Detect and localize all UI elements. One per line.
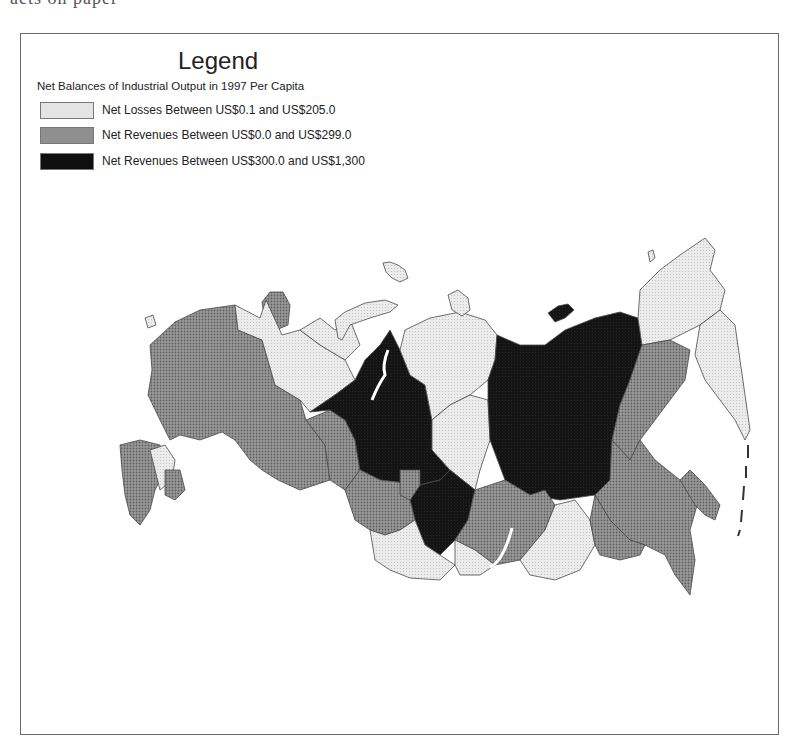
region-dagestan — [165, 470, 185, 500]
kurile-islands — [738, 445, 748, 536]
map-regions — [120, 238, 750, 595]
region-franz-josef-land — [383, 262, 408, 282]
russia-choropleth-map — [0, 0, 805, 747]
region-new-siberian-islands — [548, 304, 574, 322]
region-kamchatka — [695, 310, 750, 440]
region-khabarovsk-far-east-south — [595, 440, 700, 595]
region-wrangel-island — [648, 250, 655, 262]
region-kaliningrad — [145, 315, 156, 328]
region-severnaya-zemlya — [448, 290, 470, 316]
